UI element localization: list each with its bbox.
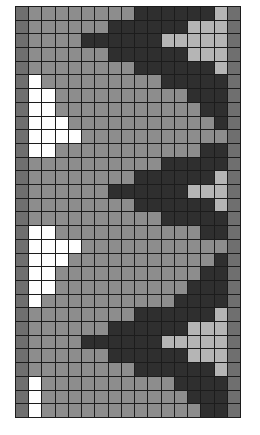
grid-cell-mid-gray[interactable] — [122, 130, 134, 143]
grid-cell-edge-gray[interactable] — [228, 21, 240, 34]
grid-cell-mid-gray[interactable] — [148, 240, 160, 253]
grid-cell-dark-gray[interactable] — [215, 404, 227, 417]
grid-cell-mid-gray[interactable] — [122, 158, 134, 171]
grid-cell-dark-gray[interactable] — [201, 103, 213, 116]
grid-cell-dark-gray[interactable] — [175, 21, 187, 34]
grid-cell-light-gray[interactable] — [215, 349, 227, 362]
grid-cell-mid-gray[interactable] — [135, 240, 147, 253]
grid-cell-dark-gray[interactable] — [162, 185, 174, 198]
grid-cell-dark-gray[interactable] — [175, 377, 187, 390]
grid-cell-white[interactable] — [42, 240, 54, 253]
grid-cell-dark-gray[interactable] — [188, 75, 200, 88]
grid-cell-white[interactable] — [42, 226, 54, 239]
grid-cell-mid-gray[interactable] — [69, 254, 81, 267]
grid-cell-edge-gray[interactable] — [228, 144, 240, 157]
grid-cell-light-gray[interactable] — [215, 62, 227, 75]
grid-cell-mid-gray[interactable] — [109, 240, 121, 253]
grid-cell-edge-gray[interactable] — [16, 404, 28, 417]
grid-cell-mid-gray[interactable] — [109, 377, 121, 390]
grid-cell-dark-gray[interactable] — [109, 322, 121, 335]
grid-cell-mid-gray[interactable] — [109, 281, 121, 294]
grid-cell-mid-gray[interactable] — [135, 158, 147, 171]
grid-cell-light-gray[interactable] — [215, 322, 227, 335]
grid-cell-edge-gray[interactable] — [228, 89, 240, 102]
grid-cell-dark-gray[interactable] — [188, 363, 200, 376]
grid-cell-dark-gray[interactable] — [109, 21, 121, 34]
grid-cell-dark-gray[interactable] — [122, 349, 134, 362]
grid-cell-mid-gray[interactable] — [215, 240, 227, 253]
grid-cell-mid-gray[interactable] — [148, 89, 160, 102]
grid-cell-mid-gray[interactable] — [82, 240, 94, 253]
grid-cell-dark-gray[interactable] — [188, 171, 200, 184]
grid-cell-mid-gray[interactable] — [56, 349, 68, 362]
grid-cell-light-gray[interactable] — [188, 185, 200, 198]
grid-cell-dark-gray[interactable] — [162, 171, 174, 184]
grid-cell-mid-gray[interactable] — [29, 48, 41, 61]
grid-cell-mid-gray[interactable] — [148, 391, 160, 404]
grid-cell-white[interactable] — [42, 144, 54, 157]
grid-cell-mid-gray[interactable] — [69, 295, 81, 308]
grid-cell-mid-gray[interactable] — [188, 404, 200, 417]
grid-cell-mid-gray[interactable] — [82, 144, 94, 157]
grid-cell-mid-gray[interactable] — [29, 199, 41, 212]
grid-cell-mid-gray[interactable] — [162, 391, 174, 404]
grid-cell-dark-gray[interactable] — [215, 89, 227, 102]
grid-cell-mid-gray[interactable] — [95, 199, 107, 212]
grid-cell-light-gray[interactable] — [175, 34, 187, 47]
grid-cell-mid-gray[interactable] — [109, 144, 121, 157]
grid-cell-dark-gray[interactable] — [175, 199, 187, 212]
grid-cell-mid-gray[interactable] — [56, 144, 68, 157]
grid-cell-mid-gray[interactable] — [69, 89, 81, 102]
grid-cell-mid-gray[interactable] — [109, 308, 121, 321]
grid-cell-mid-gray[interactable] — [148, 144, 160, 157]
grid-cell-mid-gray[interactable] — [109, 89, 121, 102]
grid-cell-edge-gray[interactable] — [16, 322, 28, 335]
grid-cell-dark-gray[interactable] — [188, 377, 200, 390]
grid-cell-light-gray[interactable] — [188, 336, 200, 349]
grid-cell-mid-gray[interactable] — [109, 254, 121, 267]
grid-cell-white[interactable] — [29, 295, 41, 308]
grid-cell-dark-gray[interactable] — [122, 34, 134, 47]
grid-cell-mid-gray[interactable] — [109, 363, 121, 376]
grid-cell-mid-gray[interactable] — [42, 21, 54, 34]
grid-cell-mid-gray[interactable] — [69, 185, 81, 198]
grid-cell-light-gray[interactable] — [201, 185, 213, 198]
grid-cell-mid-gray[interactable] — [148, 377, 160, 390]
grid-cell-white[interactable] — [29, 404, 41, 417]
grid-cell-dark-gray[interactable] — [175, 295, 187, 308]
grid-cell-mid-gray[interactable] — [135, 254, 147, 267]
grid-cell-white[interactable] — [29, 89, 41, 102]
grid-cell-dark-gray[interactable] — [201, 89, 213, 102]
grid-cell-dark-gray[interactable] — [215, 117, 227, 130]
grid-cell-mid-gray[interactable] — [42, 391, 54, 404]
grid-cell-light-gray[interactable] — [201, 48, 213, 61]
grid-cell-light-gray[interactable] — [162, 336, 174, 349]
grid-cell-white[interactable] — [42, 267, 54, 280]
grid-cell-white[interactable] — [29, 144, 41, 157]
grid-cell-light-gray[interactable] — [201, 21, 213, 34]
grid-cell-mid-gray[interactable] — [29, 171, 41, 184]
grid-cell-dark-gray[interactable] — [201, 267, 213, 280]
grid-cell-mid-gray[interactable] — [95, 130, 107, 143]
grid-cell-edge-gray[interactable] — [16, 349, 28, 362]
grid-cell-mid-gray[interactable] — [82, 21, 94, 34]
grid-cell-mid-gray[interactable] — [188, 103, 200, 116]
grid-cell-dark-gray[interactable] — [148, 185, 160, 198]
grid-cell-mid-gray[interactable] — [162, 144, 174, 157]
grid-cell-edge-gray[interactable] — [16, 254, 28, 267]
grid-cell-mid-gray[interactable] — [82, 363, 94, 376]
grid-cell-edge-gray[interactable] — [16, 185, 28, 198]
grid-cell-dark-gray[interactable] — [148, 363, 160, 376]
grid-cell-edge-gray[interactable] — [228, 62, 240, 75]
grid-cell-mid-gray[interactable] — [42, 349, 54, 362]
grid-cell-mid-gray[interactable] — [82, 75, 94, 88]
grid-cell-mid-gray[interactable] — [148, 226, 160, 239]
grid-cell-mid-gray[interactable] — [175, 89, 187, 102]
grid-cell-dark-gray[interactable] — [201, 404, 213, 417]
grid-cell-edge-gray[interactable] — [16, 363, 28, 376]
grid-cell-dark-gray[interactable] — [148, 48, 160, 61]
grid-cell-mid-gray[interactable] — [201, 130, 213, 143]
grid-cell-white[interactable] — [42, 117, 54, 130]
grid-cell-dark-gray[interactable] — [201, 377, 213, 390]
grid-cell-white[interactable] — [69, 240, 81, 253]
